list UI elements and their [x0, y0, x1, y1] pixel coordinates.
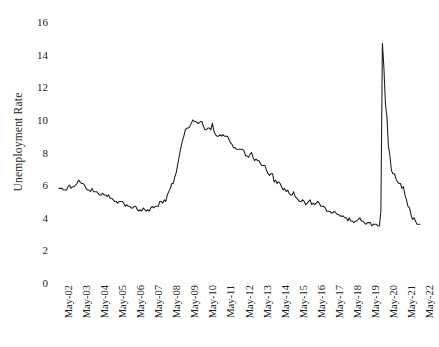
series-line: [59, 43, 420, 226]
y-axis-tick-labels: 0246810121416: [0, 0, 57, 347]
x-tick-label: May-10: [203, 285, 214, 318]
x-tick-label: May-06: [131, 285, 142, 318]
plot-area: [59, 22, 420, 283]
y-tick-label: 14: [37, 49, 48, 60]
y-tick-label: 4: [43, 212, 49, 223]
x-tick-label: May-14: [276, 285, 287, 318]
x-tick-label: May-03: [77, 285, 88, 318]
x-axis-line: [59, 283, 420, 284]
unemployment-rate-line-chart: Unemployment Rate 0246810121416 May-02Ma…: [0, 0, 439, 347]
x-axis-tick-labels: May-02May-03May-04May-05May-06May-07May-…: [59, 285, 420, 347]
y-tick-label: 10: [37, 114, 48, 125]
x-tick-label: May-12: [240, 285, 251, 318]
x-tick-label: May-13: [258, 285, 269, 318]
x-tick-label: May-21: [402, 285, 413, 318]
y-tick-label: 2: [43, 245, 49, 256]
x-tick-label: May-04: [95, 285, 106, 318]
x-tick-label: May-15: [294, 285, 305, 318]
x-tick-label: May-11: [221, 285, 232, 318]
x-tick-label: May-22: [420, 285, 431, 318]
x-tick-label: May-19: [366, 285, 377, 318]
x-tick-label: May-16: [312, 285, 323, 318]
y-tick-label: 16: [37, 17, 48, 28]
x-tick-label: May-08: [167, 285, 178, 318]
y-tick-label: 12: [37, 82, 48, 93]
y-tick-label: 6: [43, 180, 49, 191]
series-unemployment-rate: [59, 22, 420, 283]
x-tick-label: May-20: [384, 285, 395, 318]
x-tick-label: May-05: [113, 285, 124, 318]
x-tick-label: May-07: [149, 285, 160, 318]
x-tick-label: May-02: [59, 285, 70, 318]
x-tick-label: May-17: [330, 285, 341, 318]
x-tick-label: May-09: [185, 285, 196, 318]
y-tick-label: 8: [43, 147, 49, 158]
y-tick-label: 0: [43, 278, 49, 289]
x-tick-label: May-18: [348, 285, 359, 318]
